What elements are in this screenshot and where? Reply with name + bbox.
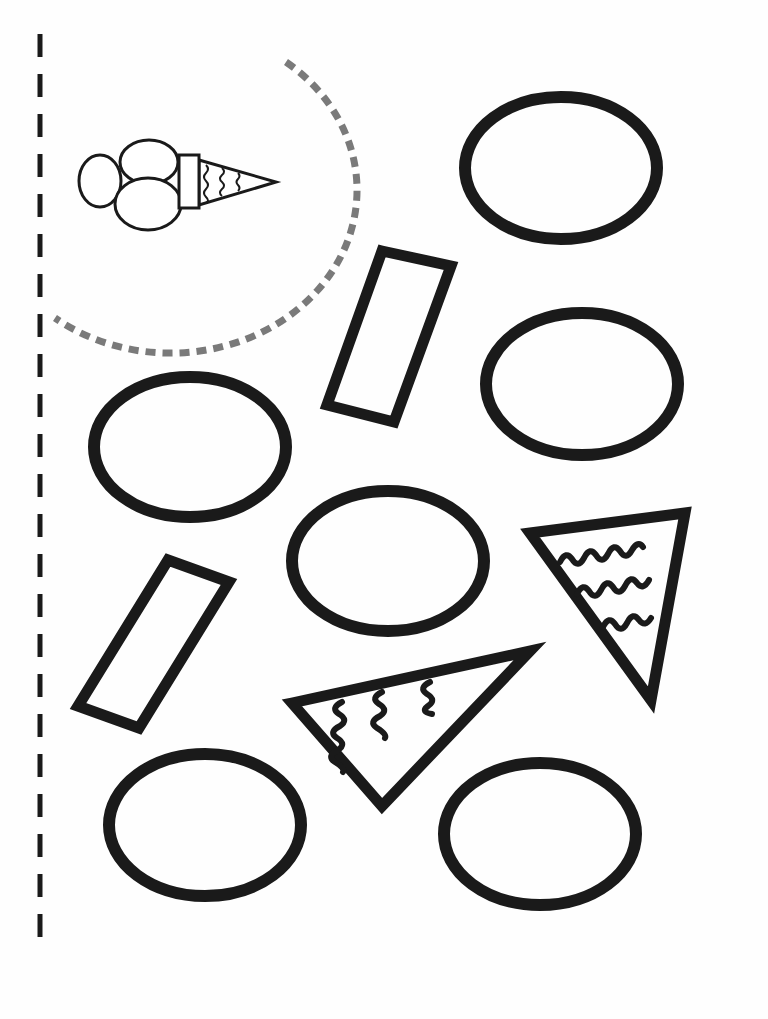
cut-line-dash — [38, 394, 43, 417]
cut-line-dash — [38, 754, 43, 777]
cone-outline — [530, 513, 685, 700]
cut-line-dash — [38, 354, 43, 377]
cone-outline — [292, 651, 530, 806]
cut-line[interactable] — [38, 34, 43, 937]
cut-line-dash — [38, 554, 43, 577]
cut-line-dash — [38, 874, 43, 897]
scoop-oval-2[interactable] — [486, 313, 678, 455]
worksheet-artwork — [0, 0, 768, 1019]
scoop-oval-6[interactable] — [444, 763, 636, 905]
cut-line-dash — [38, 634, 43, 657]
cone-wave-line — [560, 544, 643, 564]
cut-line-dash — [38, 314, 43, 337]
scoop-oval-1[interactable] — [465, 97, 657, 239]
icon-scoop — [115, 178, 181, 230]
cut-line-dash — [38, 914, 43, 937]
cut-line-dash — [38, 74, 43, 97]
band-rectangle-2[interactable] — [78, 560, 229, 728]
cut-line-dash — [38, 794, 43, 817]
cut-line-dash — [38, 594, 43, 617]
cut-line-dash — [38, 234, 43, 257]
band-rectangle-1[interactable] — [327, 251, 451, 422]
cone-triangle-1[interactable] — [530, 513, 685, 700]
cut-line-dash — [38, 674, 43, 697]
scoop-oval-4[interactable] — [292, 491, 484, 631]
ice-cream-cone-icon — [79, 140, 276, 230]
cone-triangle-2[interactable] — [292, 651, 530, 806]
worksheet-page: Ice cream cut-and-paste shapes — [0, 0, 768, 1019]
cone-wave-line — [603, 616, 651, 629]
cut-line-dash — [38, 834, 43, 857]
scoop-ovals — [94, 97, 678, 905]
cut-line-dash — [38, 274, 43, 297]
cone-wave-line — [373, 692, 385, 738]
cut-line-dash — [38, 194, 43, 217]
cut-line-dash — [38, 154, 43, 177]
cone-wave-line — [423, 682, 432, 714]
icon-band — [179, 155, 199, 208]
cut-line-dash — [38, 34, 43, 57]
scoop-oval-5[interactable] — [109, 754, 301, 896]
cut-line-dash — [38, 114, 43, 137]
cut-line-dash — [38, 434, 43, 457]
cut-line-dash — [38, 514, 43, 537]
cone-wave-line — [577, 579, 649, 596]
cut-line-dash — [38, 714, 43, 737]
scoop-oval-3[interactable] — [94, 377, 286, 517]
cut-line-dash — [38, 474, 43, 497]
